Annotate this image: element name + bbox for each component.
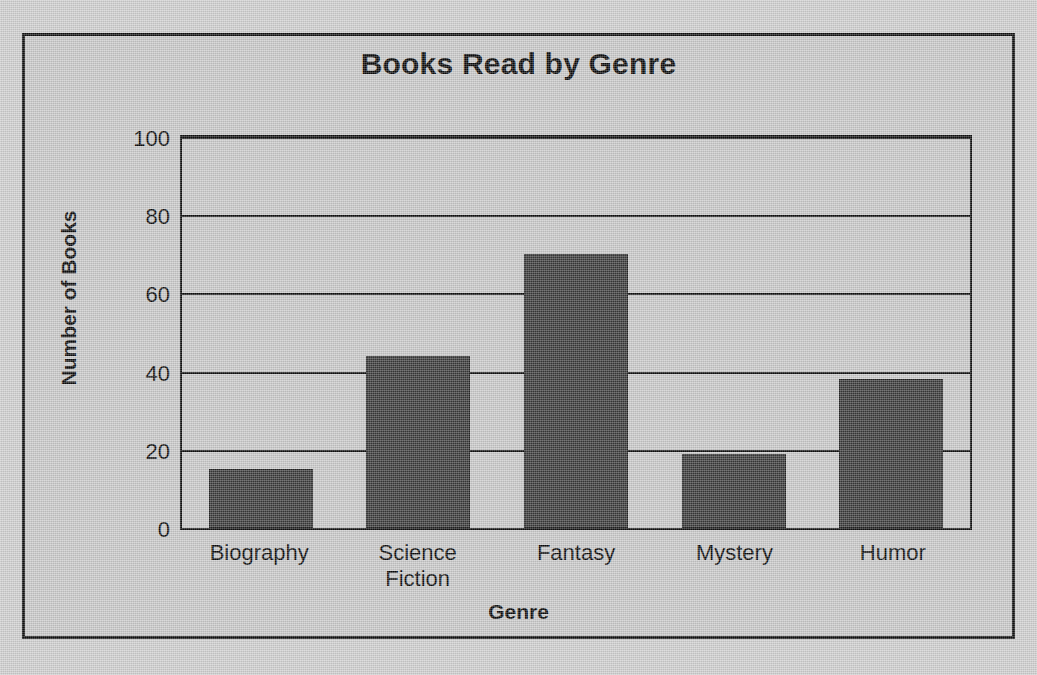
x-label-biography: Biography xyxy=(180,534,338,592)
x-label-fantasy: Fantasy xyxy=(497,534,655,592)
bar-mystery[interactable] xyxy=(682,454,786,528)
y-tick-label-40: 40 xyxy=(146,361,170,387)
y-tick-label-20: 20 xyxy=(146,439,170,465)
x-label-humor: Humor xyxy=(814,534,972,592)
x-axis-title: Genre xyxy=(25,600,1012,624)
plot-area: 100 80 60 40 20 0 xyxy=(180,135,972,530)
y-tick-label-60: 60 xyxy=(146,282,170,308)
bar-slot-humor xyxy=(812,137,970,528)
x-label-science-fiction: Science Fiction xyxy=(338,534,496,592)
x-label-science-fiction-line2: Fiction xyxy=(338,566,496,592)
x-label-science-fiction-line1: Science xyxy=(338,540,496,566)
bar-slot-biography xyxy=(182,137,340,528)
x-label-fantasy-line1: Fantasy xyxy=(497,540,655,566)
bar-science-fiction[interactable] xyxy=(366,356,470,528)
bar-biography[interactable] xyxy=(209,469,313,528)
bar-slot-mystery xyxy=(655,137,813,528)
x-label-humor-line1: Humor xyxy=(814,540,972,566)
y-tick-label-0: 0 xyxy=(158,517,170,543)
bar-fantasy[interactable] xyxy=(524,254,628,528)
chart-title: Books Read by Genre xyxy=(25,47,1012,81)
bar-slot-science-fiction xyxy=(340,137,498,528)
y-axis-title: Number of Books xyxy=(57,198,81,398)
bar-slot-fantasy xyxy=(497,137,655,528)
bar-humor[interactable] xyxy=(839,379,943,528)
y-tick-label-100: 100 xyxy=(133,126,170,152)
x-label-mystery-line1: Mystery xyxy=(655,540,813,566)
bars-layer xyxy=(182,137,970,528)
x-label-mystery: Mystery xyxy=(655,534,813,592)
x-axis-tick-labels: Biography Science Fiction Fantasy Myster… xyxy=(180,534,972,592)
y-tick-label-80: 80 xyxy=(146,204,170,230)
x-label-biography-line1: Biography xyxy=(180,540,338,566)
chart-frame: Books Read by Genre Number of Books 100 … xyxy=(22,33,1015,639)
gridline-0: 0 xyxy=(182,528,970,530)
